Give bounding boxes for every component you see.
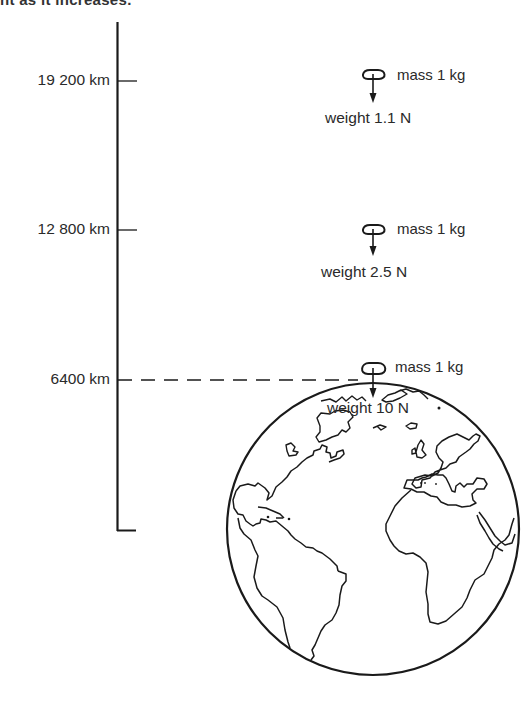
altitude-label-6400: 6400 km <box>0 370 110 388</box>
baffin-island <box>286 443 298 456</box>
arctic-islands <box>373 425 386 430</box>
globe-outline <box>227 383 519 675</box>
british-isles <box>412 440 426 458</box>
altitude-label-12800: 12 800 km <box>0 220 110 238</box>
iceland <box>406 423 417 429</box>
mass-glyph-19200 <box>363 70 385 103</box>
weight-label-19200: weight 1.1 N <box>325 109 411 127</box>
diagram-canvas <box>0 0 532 702</box>
cuba <box>258 507 284 518</box>
earth-globe <box>227 383 519 675</box>
mass-glyph-12800 <box>363 225 385 256</box>
mass-label-12800: mass 1 kg <box>397 220 465 237</box>
mass-glyph-6400 <box>362 363 385 398</box>
mediterranean-coast <box>404 474 487 507</box>
mass-label-6400: mass 1 kg <box>395 358 463 375</box>
weight-label-6400: weight 10 N <box>327 399 409 417</box>
south-america <box>238 518 346 660</box>
weight-label-12800: weight 2.5 N <box>321 263 407 281</box>
north-america <box>233 445 344 571</box>
altitude-label-19200: 19 200 km <box>0 71 110 89</box>
africa <box>386 490 514 624</box>
mass-label-19200: mass 1 kg <box>397 66 465 83</box>
